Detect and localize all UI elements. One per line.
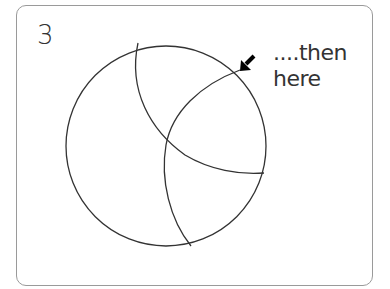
arrow-down-left-icon	[240, 56, 254, 71]
arc-arrow-to-bottom	[164, 70, 240, 246]
circle-diagram	[0, 0, 390, 289]
